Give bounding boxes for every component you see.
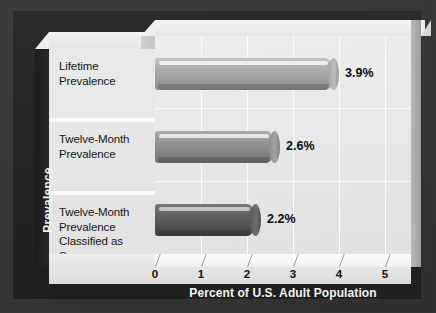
block-top-left-face	[49, 32, 155, 49]
x-axis-tick-labels: 0 1 2 3 4 5	[49, 267, 411, 284]
axis-tick-2	[247, 254, 253, 267]
bar-end-cap	[269, 131, 280, 163]
value-label-twelve-month: 2.6%	[286, 139, 315, 153]
x-tick-label-0: 0	[145, 268, 165, 280]
bar-twelve-month-prevalence	[155, 131, 275, 163]
axis-tick-3	[293, 254, 299, 267]
y-axis-title: Prevalence	[41, 155, 55, 245]
bar-shadow	[158, 157, 269, 163]
gridline-x-5	[385, 36, 386, 254]
x-tick-label-1: 1	[191, 268, 211, 280]
category-label-lifetime: Lifetime Prevalence	[49, 53, 155, 88]
bar-shadow	[158, 230, 250, 236]
x-tick-label-5: 5	[375, 268, 395, 280]
bar-highlight	[159, 207, 250, 211]
bar-highlight	[159, 134, 269, 138]
gridline-y-1	[155, 108, 411, 109]
chart-screenshot: 3.9% 2.6% 2.2% Lifetime Prevalence Twelv…	[0, 0, 436, 313]
floor-left	[49, 254, 155, 267]
category-separator-1	[49, 118, 155, 122]
category-label-twelve-month: Twelve-Month Prevalence	[49, 126, 155, 161]
category-separator-2	[49, 191, 155, 195]
x-tick-label-2: 2	[237, 268, 257, 280]
x-tick-label-3: 3	[283, 268, 303, 280]
block-step-riser	[141, 36, 155, 50]
gridline-y-2	[155, 181, 411, 182]
category-label-column: Lifetime Prevalence Twelve-Month Prevale…	[49, 49, 155, 267]
block-top-right-face	[155, 20, 411, 36]
axis-floor	[155, 254, 411, 267]
bar-lifetime-prevalence	[155, 58, 334, 90]
axis-tick-5	[385, 254, 391, 267]
axis-tick-4	[339, 254, 345, 267]
plot-area: 3.9% 2.6% 2.2%	[155, 36, 411, 254]
bar-highlight	[159, 61, 328, 65]
bar-end-cap	[328, 58, 339, 90]
bar-twelve-month-severe	[155, 204, 256, 236]
axis-tick-0	[155, 254, 161, 267]
value-label-lifetime: 3.9%	[345, 66, 374, 80]
gridline-x-4	[339, 36, 340, 254]
wall-right-edge	[411, 20, 421, 267]
bar-shadow	[158, 84, 328, 90]
value-label-severe: 2.2%	[267, 212, 296, 226]
x-tick-label-4: 4	[329, 268, 349, 280]
bar-end-cap	[250, 204, 261, 236]
y-axis-title-wrap: Prevalence	[27, 71, 45, 251]
axis-tick-1	[201, 254, 207, 267]
x-axis-title: Percent of U.S. Adult Population	[155, 286, 411, 300]
chart-panel: 3.9% 2.6% 2.2% Lifetime Prevalence Twelv…	[13, 11, 421, 299]
